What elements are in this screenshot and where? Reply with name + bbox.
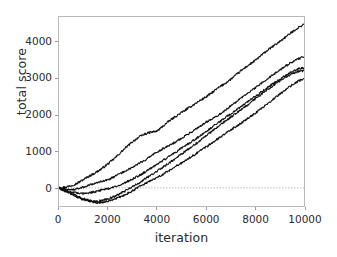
x-tick-mark	[58, 207, 59, 210]
x-axis-label: iteration	[58, 230, 305, 245]
y-tick-label: 1000	[25, 145, 52, 157]
y-tick-label: 3000	[25, 71, 52, 83]
x-tick-mark	[255, 207, 256, 210]
y-tick-label: 2000	[25, 108, 52, 120]
x-tick-mark	[305, 207, 306, 210]
y-tick-label: 4000	[25, 35, 52, 47]
x-tick-label: 4000	[143, 213, 170, 225]
series-line	[59, 67, 304, 194]
x-tick-mark	[156, 207, 157, 210]
x-tick-label: 6000	[193, 213, 220, 225]
series-line	[59, 79, 304, 204]
x-tick-mark	[206, 207, 207, 210]
x-tick-label: 8000	[242, 213, 269, 225]
chart-figure: total score 01000200030004000 0200040006…	[0, 0, 337, 257]
series-line	[59, 57, 304, 191]
plot-area	[58, 16, 305, 207]
series-svg	[59, 17, 304, 206]
y-tick-label: 0	[45, 182, 52, 194]
x-tick-label: 2000	[94, 213, 121, 225]
x-tick-label: 10000	[288, 213, 321, 225]
x-tick-mark	[107, 207, 108, 210]
x-tick-label: 0	[55, 213, 62, 225]
